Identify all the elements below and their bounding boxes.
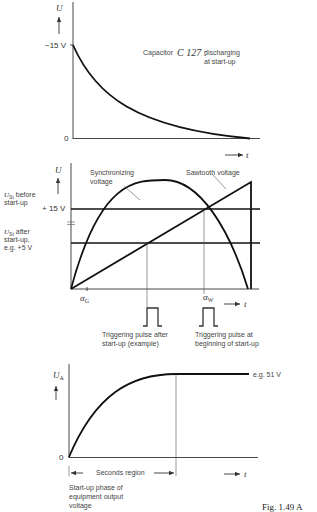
pulse2-caption-line1: Triggering pulse at: [195, 331, 253, 339]
sync-label-line1: Synchronizing: [90, 169, 134, 177]
startup-caption-line1: Start-up phase of: [69, 484, 123, 492]
trigger-pulse-after-startup: [143, 308, 162, 326]
x-axis-label: t: [244, 469, 247, 479]
pulse1-caption-line2: start-up (example): [102, 340, 159, 348]
y-tick-zero: 0: [59, 453, 64, 462]
y-axis-label: U: [55, 165, 62, 175]
output-voltage-curve: [69, 374, 249, 457]
y-tick-high: −15 V: [45, 41, 67, 50]
ust-after-label-line3: e.g. +5 V: [4, 244, 33, 252]
startup-diagram: U −15 V 0 t Capacitor C 127 : dischargin…: [0, 0, 317, 512]
plateau-label: e.g. 51 V: [253, 371, 281, 379]
sawtooth-label: Sawtooth voltage: [186, 169, 240, 177]
alpha-g-label: αG: [80, 293, 90, 304]
startup-caption-line2: equipment output: [69, 493, 123, 501]
x-axis-label: t: [244, 299, 247, 309]
annotation-component: C 127 :: [177, 47, 207, 58]
y-tick-zero: 0: [64, 134, 69, 143]
startup-caption-line3: voltage: [69, 502, 92, 510]
panel-capacitor-discharge: U −15 V 0 t Capacitor C 127 : dischargin…: [45, 2, 260, 160]
pulse2-caption-line2: beginning of start-up: [195, 340, 259, 348]
y-tick-high: + 15 V: [42, 204, 66, 213]
annotation-line2: at start-up: [204, 58, 236, 66]
sync-leader-line: [124, 186, 140, 200]
x-axis-label: t: [246, 150, 249, 160]
pulse1-caption-line1: Triggering pulse after: [102, 331, 169, 339]
y-axis-label: U: [56, 3, 63, 13]
sync-label-line2: voltage: [90, 178, 113, 186]
annotation-prefix: Capacitor: [143, 49, 174, 57]
trigger-pulse-beginning-startup: [199, 308, 218, 326]
ust-after-label-line2: start-up,: [4, 236, 30, 244]
sawtooth-leader-line: [212, 174, 226, 189]
figure-caption: Fig. 1.49 A: [262, 502, 303, 512]
ust-before-label-line2: start-up: [4, 199, 28, 207]
y-axis-label: UA: [53, 370, 65, 381]
sawtooth-curve: [71, 182, 251, 289]
region-label: Seconds region: [96, 469, 145, 477]
panel-trigger-timing: U USt before start-up USt after start-up…: [4, 163, 260, 348]
panel-output-voltage: UA 0 e.g. 51 V Seconds region t Start-up…: [53, 364, 281, 510]
annotation-line1: discharging: [204, 49, 240, 57]
alpha-w-label: αW: [203, 292, 214, 303]
